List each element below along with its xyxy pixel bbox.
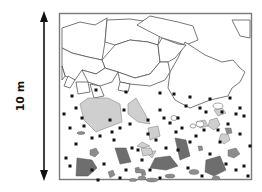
fragment-square <box>195 135 198 138</box>
fragment-square <box>125 91 128 94</box>
clast-medium <box>212 176 220 180</box>
fragment-square <box>163 117 166 120</box>
fragment-square <box>177 117 180 120</box>
fragment-square <box>173 93 176 96</box>
fragment-square <box>81 117 84 120</box>
fragment-square <box>175 131 178 134</box>
fragment-square <box>217 129 220 132</box>
fragment-square <box>185 105 188 108</box>
fragment-square <box>189 141 192 144</box>
fragment-square <box>229 97 232 100</box>
fragment-square <box>235 169 238 172</box>
fragment-square <box>111 131 114 134</box>
fragment-square <box>83 125 86 128</box>
fragment-square <box>219 141 222 144</box>
fragment-square <box>91 137 94 140</box>
fragment-square <box>159 109 162 112</box>
arrow-up-icon <box>40 11 48 22</box>
fragment-square <box>147 119 150 122</box>
fragment-square <box>113 139 116 142</box>
clast-medium <box>165 174 175 178</box>
fragment-square <box>109 119 112 122</box>
fragment-square <box>155 139 158 142</box>
fragment-square <box>97 179 100 182</box>
clast-outline <box>190 124 196 128</box>
fragment-square <box>203 129 206 132</box>
fragment-square <box>95 89 98 92</box>
fragment-square <box>91 169 94 172</box>
fragment-square <box>249 145 252 148</box>
block <box>118 82 130 92</box>
fragment-square <box>209 98 212 101</box>
clast-outline <box>171 116 177 121</box>
clast-medium <box>138 176 146 180</box>
fragment-square <box>187 167 190 170</box>
fragment-square <box>137 149 140 152</box>
fragment-square <box>243 165 246 168</box>
clast-medium <box>189 170 199 175</box>
fragment-square <box>221 111 224 114</box>
fragment-square <box>201 175 204 178</box>
fragment-square <box>189 96 192 99</box>
scale-label: 10 m <box>14 81 27 112</box>
clast-medium <box>129 179 137 182</box>
fragment-square <box>125 169 128 172</box>
block <box>76 82 90 94</box>
fragment-square <box>129 123 132 126</box>
arrow-down-icon <box>40 170 48 181</box>
fragment-square <box>99 135 102 138</box>
fragment-square <box>181 127 184 130</box>
fragment-square <box>147 133 150 136</box>
fragment-square <box>209 153 212 156</box>
clast-medium <box>135 169 145 173</box>
fragment-square <box>169 122 172 125</box>
fragment-square <box>123 109 126 112</box>
fragment-square <box>227 123 230 126</box>
fragment-square <box>141 159 144 162</box>
fragment-square <box>225 163 228 166</box>
fragment-square <box>65 157 68 160</box>
fragment-square <box>235 113 238 116</box>
fragment-square <box>75 107 78 110</box>
fragment-square <box>149 169 152 172</box>
fragment-square <box>69 165 72 168</box>
fragment-square <box>177 149 180 152</box>
fragment-square <box>69 127 72 130</box>
fragment-square <box>239 133 242 136</box>
section-diagram: 10 m <box>0 0 262 192</box>
clast-medium <box>77 132 85 135</box>
fragment-square <box>159 92 162 95</box>
fragment-square <box>205 111 208 114</box>
clast-outline <box>213 103 223 109</box>
fragment-square <box>159 177 162 180</box>
fragment-square <box>71 95 74 98</box>
fragment-square <box>119 127 122 130</box>
fragment-square <box>199 107 202 110</box>
fragment-square <box>243 115 246 118</box>
fragment-square <box>63 113 66 116</box>
fragment-square <box>239 107 242 110</box>
scale-bar: 10 m <box>14 11 48 181</box>
clast-medium <box>146 178 158 182</box>
clast-outline <box>196 121 204 127</box>
fragment-square <box>75 143 78 146</box>
clast-medium <box>198 146 203 151</box>
fragment-square <box>131 147 134 150</box>
fragment-square <box>247 175 250 178</box>
fragment-square <box>165 147 168 150</box>
fragment-square <box>103 163 106 166</box>
fragment-square <box>119 177 122 180</box>
